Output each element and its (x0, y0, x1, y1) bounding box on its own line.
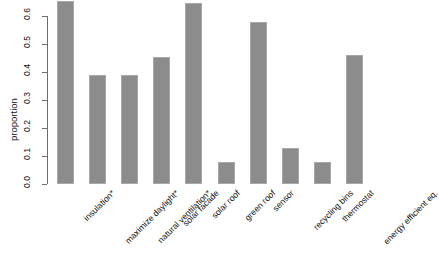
y-tick-label-6: 0.6 (22, 1, 32, 27)
y-tick-label-wrap-3: 0.3 (14, 93, 40, 107)
y-tick-label-3: 0.3 (22, 85, 32, 111)
plot-area (49, 10, 371, 184)
y-tick-label-wrap-5: 0.5 (14, 37, 40, 51)
y-tick-1 (42, 156, 47, 157)
y-tick-label-1: 0.1 (22, 141, 32, 167)
y-axis-line (47, 16, 48, 184)
y-tick-5 (42, 44, 47, 45)
y-tick-label-4: 0.4 (22, 57, 32, 83)
y-tick-label-wrap-4: 0.4 (14, 65, 40, 79)
y-tick-label-5: 0.5 (22, 29, 32, 55)
y-tick-label-wrap-1: 0.1 (14, 149, 40, 163)
bar (314, 162, 331, 184)
y-tick-label-wrap-6: 0.6 (14, 9, 40, 23)
x-axis-label: maximize daylight* (123, 188, 181, 246)
y-tick-6 (42, 16, 47, 17)
y-tick-label-wrap-2: 0.2 (14, 121, 40, 135)
bar (282, 148, 299, 184)
bar (185, 3, 202, 184)
x-axis-label: energy efficient eq. (381, 188, 439, 246)
bar (121, 75, 138, 184)
bar (218, 162, 235, 184)
y-tick-label-2: 0.2 (22, 113, 32, 139)
y-tick-3 (42, 100, 47, 101)
x-axis-label: insulation* (82, 188, 117, 223)
y-tick-2 (42, 128, 47, 129)
bar (153, 57, 170, 184)
bar (346, 55, 363, 184)
y-tick-0 (42, 184, 47, 185)
bar (57, 1, 74, 184)
x-axis-labels: insulation*maximize daylight*natural ven… (0, 186, 374, 258)
y-tick-4 (42, 72, 47, 73)
bar (250, 22, 267, 184)
bar (89, 75, 106, 184)
